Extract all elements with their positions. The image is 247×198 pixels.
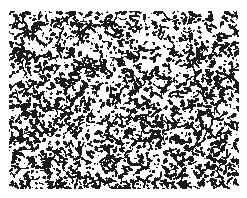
speckle-texture-image	[0, 0, 247, 198]
micrograph-figure	[0, 0, 247, 198]
